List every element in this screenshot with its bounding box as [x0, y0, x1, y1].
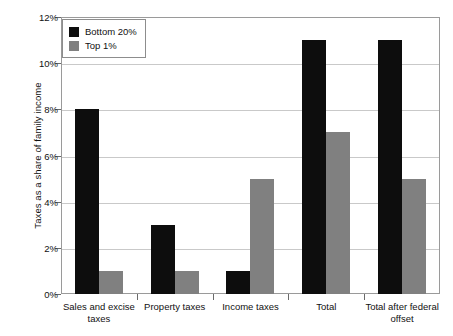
bar: [302, 40, 326, 294]
x-tick-mark: [364, 294, 365, 300]
bar: [326, 132, 350, 294]
bar-group: [288, 17, 364, 294]
legend-item: Top 1%: [69, 39, 137, 52]
bar: [378, 40, 402, 294]
bar: [402, 179, 426, 294]
bar: [99, 271, 123, 294]
legend-label: Top 1%: [85, 40, 117, 51]
x-tick-label: Total: [288, 301, 364, 313]
legend-swatch-icon: [69, 27, 79, 37]
y-tick-label: 6%: [18, 150, 58, 161]
x-tick-label: Total after federal offset: [364, 301, 440, 325]
bar-group: [213, 17, 289, 294]
x-tick-mark: [288, 294, 289, 300]
bar: [151, 225, 175, 294]
y-tick-label: 8%: [18, 104, 58, 115]
x-tick-label: Sales and excise taxes: [61, 301, 137, 325]
bar-chart: Taxes as a share of family income 0%2%4%…: [0, 0, 453, 336]
chart-legend: Bottom 20% Top 1%: [62, 19, 146, 58]
legend-item: Bottom 20%: [69, 25, 137, 38]
y-tick-label: 0%: [18, 289, 58, 300]
bar: [226, 271, 250, 294]
x-tick-mark: [213, 294, 214, 300]
x-tick-label: Income taxes: [213, 301, 289, 313]
y-tick-label: 4%: [18, 196, 58, 207]
bar-groups: [61, 17, 440, 294]
y-tick-label: 10%: [18, 58, 58, 69]
bar: [175, 271, 199, 294]
bar-group: [364, 17, 440, 294]
bar-group: [61, 17, 137, 294]
y-tick-label: 2%: [18, 242, 58, 253]
bar: [250, 179, 274, 294]
bar: [75, 109, 99, 294]
legend-label: Bottom 20%: [85, 26, 137, 37]
x-tick-label: Property taxes: [137, 301, 213, 313]
bar-group: [137, 17, 213, 294]
y-tick-label: 12%: [18, 12, 58, 23]
legend-swatch-icon: [69, 41, 79, 51]
x-tick-mark: [137, 294, 138, 300]
